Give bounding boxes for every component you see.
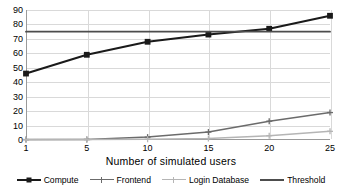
x-axis-title: Number of simulated users <box>0 155 342 167</box>
series-line-compute <box>26 16 330 74</box>
legend-item-compute[interactable]: Compute <box>17 175 79 185</box>
data-point-marker <box>327 128 333 134</box>
legend-label: Threshold <box>287 175 325 185</box>
chart-legend: ComputeFrontendLogin DatabaseThreshold <box>0 172 342 188</box>
y-tick-30: 30 <box>1 93 23 102</box>
data-point-marker <box>84 137 90 143</box>
data-point-marker <box>205 129 211 135</box>
legend-item-login-database[interactable]: Login Database <box>162 175 249 185</box>
data-point-marker <box>205 136 211 142</box>
legend-item-threshold[interactable]: Threshold <box>260 175 325 185</box>
y-tick-40: 40 <box>1 78 23 87</box>
legend-label: Compute <box>44 175 79 185</box>
x-tick-label: 5 <box>84 143 89 153</box>
legend-swatch-icon <box>162 175 186 185</box>
x-axis-labels: 1510152025 <box>26 143 330 155</box>
legend-label: Frontend <box>117 175 151 185</box>
data-point-marker <box>327 13 333 19</box>
series-line-login-database <box>26 131 330 139</box>
y-tick-50: 50 <box>1 64 23 73</box>
legend-label: Login Database <box>189 175 249 185</box>
data-point-marker <box>145 39 151 45</box>
data-point-marker <box>327 110 333 116</box>
legend-swatch-icon <box>90 175 114 185</box>
y-axis-labels: 90 80 70 60 50 40 30 20 10 0 <box>0 10 26 140</box>
gridline-vertical <box>331 10 332 139</box>
data-point-marker <box>23 71 29 77</box>
legend-item-frontend[interactable]: Frontend <box>90 175 151 185</box>
legend-swatch-icon <box>260 175 284 185</box>
y-tick-60: 60 <box>1 49 23 58</box>
series-line-frontend <box>26 113 330 140</box>
data-series-layer <box>26 10 330 140</box>
y-tick-10: 10 <box>1 122 23 131</box>
x-tick-label: 1 <box>23 143 28 153</box>
y-tick-70: 70 <box>1 35 23 44</box>
data-point-marker <box>84 52 90 58</box>
x-tick-label: 15 <box>203 143 213 153</box>
data-point-marker <box>266 133 272 139</box>
y-tick-80: 80 <box>1 20 23 29</box>
y-tick-20: 20 <box>1 107 23 116</box>
y-tick-90: 90 <box>1 6 23 15</box>
x-tick-label: 25 <box>325 143 335 153</box>
chart-container: 90 80 70 60 50 40 30 20 10 0 1510152025 … <box>0 0 342 194</box>
y-tick-0: 0 <box>1 136 23 145</box>
legend-swatch-icon <box>17 175 41 185</box>
x-tick-label: 10 <box>143 143 153 153</box>
x-tick-label: 20 <box>264 143 274 153</box>
data-point-marker <box>266 118 272 124</box>
